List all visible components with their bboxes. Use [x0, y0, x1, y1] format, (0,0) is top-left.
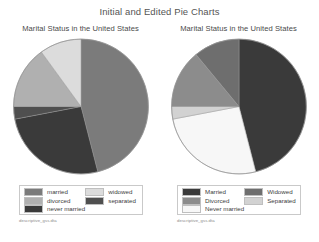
legend-item[interactable]: Widowed — [244, 188, 297, 196]
panel-initial: Marital Status in the United States marr… — [2, 22, 159, 238]
panel-edited: Marital Status in the United States Marr… — [160, 22, 317, 238]
legend-swatch-icon — [182, 197, 201, 205]
edited-pie-chart — [170, 38, 307, 175]
panel-edited-subtitle: Marital Status in the United States — [160, 24, 317, 33]
legend-item[interactable]: Divorced — [182, 197, 244, 205]
legend-item-label: married — [47, 188, 68, 196]
legend-swatch-icon — [85, 188, 104, 196]
legend-swatch-icon — [24, 197, 43, 205]
legend-item-label: never married — [47, 205, 85, 213]
panel-edited-plot-area — [160, 38, 317, 183]
legend-item[interactable]: separated — [85, 197, 139, 205]
legend-swatch-icon — [182, 188, 201, 196]
legend-item-label: divorced — [47, 197, 70, 205]
legend-swatch-icon — [85, 197, 104, 205]
legend-item-label: Separated — [267, 197, 296, 205]
panel-initial-source-note: descriptive_gss.dta — [19, 218, 57, 223]
legend-swatch-icon — [244, 197, 263, 205]
legend-item[interactable]: widowed — [85, 188, 139, 196]
panel-edited-legend: Married Divorced Never married Widowed — [177, 185, 301, 215]
legend-item[interactable]: never married — [24, 205, 85, 213]
panel-edited-source-note: descriptive_gss.dta — [177, 218, 215, 223]
legend-item[interactable]: Separated — [244, 197, 297, 205]
legend-item[interactable]: married — [24, 188, 85, 196]
legend-swatch-icon — [24, 188, 43, 196]
legend-item-label: Divorced — [205, 197, 229, 205]
legend-swatch-icon — [24, 205, 43, 213]
legend-item-label: Widowed — [267, 188, 292, 196]
legend-swatch-icon — [182, 205, 201, 213]
pie-charts-figure: Initial and Edited Pie Charts Marital St… — [0, 0, 319, 242]
page-title: Initial and Edited Pie Charts — [0, 6, 319, 17]
legend-item[interactable]: Never married — [182, 205, 244, 213]
legend-item[interactable]: Married — [182, 188, 244, 196]
legend-item-label: Married — [205, 188, 226, 196]
legend-swatch-icon — [244, 188, 263, 196]
initial-pie-chart — [12, 38, 149, 175]
panel-initial-legend: married divorced never married widowed — [19, 185, 143, 215]
legend-item-label: widowed — [108, 188, 132, 196]
legend-item[interactable]: divorced — [24, 197, 85, 205]
legend-item-label: separated — [108, 197, 136, 205]
panel-initial-subtitle: Marital Status in the United States — [2, 24, 159, 33]
panel-initial-plot-area — [2, 38, 159, 183]
legend-item-label: Never married — [205, 205, 244, 213]
